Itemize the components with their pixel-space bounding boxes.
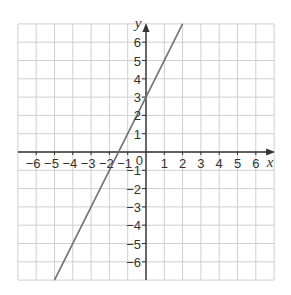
x-tick-label: 4 — [216, 156, 223, 171]
coordinate-grid-chart: −6−5−4−3−2−1123456−6−5−4−3−2−11234560xy — [0, 0, 291, 295]
tick-labels: −6−5−4−3−2−1123456−6−5−4−3−2−11234560xy — [26, 15, 274, 270]
x-tick-label: −2 — [99, 156, 114, 171]
x-tick-label: 3 — [197, 156, 204, 171]
y-tick-label: 1 — [134, 127, 141, 142]
x-tick-label: −4 — [62, 156, 77, 171]
y-tick-label: 5 — [134, 54, 141, 69]
y-tick-label: −4 — [126, 218, 141, 233]
y-tick-label: 6 — [134, 35, 141, 50]
y-tick-label: −6 — [126, 255, 141, 270]
x-tick-label: 1 — [161, 156, 168, 171]
y-tick-label: −3 — [126, 200, 141, 215]
x-tick-label: 2 — [179, 156, 186, 171]
x-tick-label: −5 — [44, 156, 59, 171]
y-axis-label: y — [133, 15, 142, 31]
x-tick-label: −3 — [81, 156, 96, 171]
x-tick-label: −6 — [26, 156, 41, 171]
x-tick-label: 6 — [252, 156, 259, 171]
axes — [18, 23, 275, 280]
y-tick-label: 3 — [134, 90, 141, 105]
y-tick-label: −5 — [126, 237, 141, 252]
origin-label: 0 — [136, 153, 143, 168]
y-tick-label: 4 — [134, 72, 141, 87]
y-tick-label: −2 — [126, 182, 141, 197]
x-axis-label: x — [266, 154, 274, 170]
y-tick-label: 2 — [134, 108, 141, 123]
x-tick-label: 5 — [234, 156, 241, 171]
